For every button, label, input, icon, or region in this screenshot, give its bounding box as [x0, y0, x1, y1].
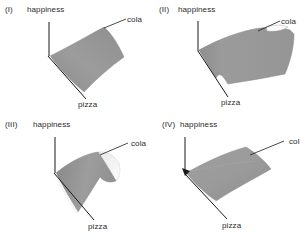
panel-4-axis-label-cola: col [289, 137, 300, 146]
panel-2-roman-label: (II) [159, 5, 169, 14]
panel-4: (IV) happiness col pizza [154, 119, 307, 238]
panel-4-surface [186, 147, 271, 201]
panel-4-roman-label: (IV) [162, 120, 175, 129]
panel-1-roman-label: (I) [5, 5, 13, 14]
panel-2-surface [199, 27, 294, 84]
panel-3-plot [0, 119, 153, 238]
panel-3-axis-label-pizza: pizza [88, 222, 107, 231]
panel-3-axis-label-cola: cola [131, 139, 146, 148]
panel-4-leader-cola [250, 141, 284, 155]
panel-3-roman-label: (III) [5, 120, 18, 129]
panel-1-axis-label-pizza: pizza [78, 100, 97, 109]
panel-2-axis-label-pizza: pizza [221, 98, 240, 107]
figure-four-surface-panels: (I) happiness cola pizza [0, 0, 307, 239]
panel-1-axis-label-cola: cola [127, 15, 142, 24]
panel-2: (II) happiness cola pizza [154, 0, 307, 119]
panel-1-axis-label-happiness: happiness [27, 5, 64, 14]
panel-3: (III) happiness cola pizza [0, 119, 153, 238]
panel-3-axis-label-happiness: happiness [33, 120, 70, 129]
panel-1: (I) happiness cola pizza [0, 0, 153, 119]
panel-2-axis-label-cola: cola [281, 17, 296, 26]
panel-4-axis-label-pizza: pizza [222, 221, 241, 230]
panel-4-axis-label-happiness: happiness [180, 120, 217, 129]
panel-1-surface [50, 27, 124, 92]
panel-2-axis-label-happiness: happiness [178, 5, 215, 14]
panel-3-leader-cola [100, 143, 128, 155]
panel-1-leader-cola [104, 19, 126, 28]
